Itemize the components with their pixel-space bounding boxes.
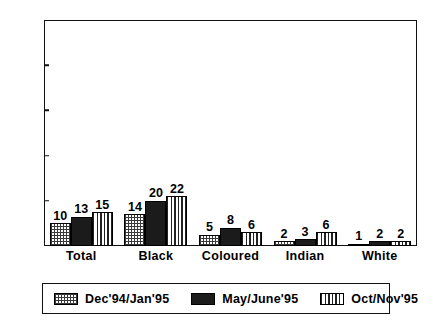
x-axis-category-labels: TotalBlackColouredIndianWhite: [44, 249, 417, 269]
x-axis-category-label: Black: [138, 249, 173, 263]
x-axis-category-label: White: [362, 249, 398, 263]
legend: Dec'94/Jan'95May/June'95Oct/Nov'95: [42, 283, 390, 314]
bar-value-label: 8: [227, 214, 234, 227]
bar: 13: [71, 217, 92, 246]
bar-value-label: 22: [170, 183, 184, 196]
bars-layer: 101315142022586236122: [44, 20, 417, 246]
legend-item: Dec'94/Jan'95: [54, 292, 169, 306]
bar-value-label: 6: [248, 219, 255, 232]
legend-swatch: [191, 293, 215, 305]
bar-value-label: 2: [281, 228, 288, 241]
bar-group: 586: [199, 20, 262, 246]
bar: 2: [274, 241, 295, 246]
bar-value-label: 6: [323, 219, 330, 232]
bar-group: 101315: [50, 20, 113, 246]
legend-item: May/June'95: [191, 292, 298, 306]
bar: 6: [241, 232, 262, 246]
bar-group: 142022: [124, 20, 187, 246]
x-axis-category-label: Total: [66, 249, 96, 263]
bar-value-label: 13: [74, 203, 88, 216]
bar-value-label: 20: [149, 187, 163, 200]
bar: 8: [220, 228, 241, 246]
legend-label: May/June'95: [222, 292, 298, 306]
bar: 6: [316, 232, 337, 246]
bar: 1: [348, 244, 369, 246]
bar: 14: [124, 214, 145, 246]
bar-value-label: 1: [355, 230, 362, 243]
bar-value-label: 2: [397, 228, 404, 241]
bar-chart: 020406080100 101315142022586236122 Total…: [0, 0, 433, 323]
bar-value-label: 3: [302, 226, 309, 239]
bar: 2: [390, 241, 411, 246]
bar: 22: [166, 196, 187, 246]
bar: 10: [50, 223, 71, 246]
legend-item: Oct/Nov'95: [320, 292, 418, 306]
bar: 15: [92, 212, 113, 246]
bar: 5: [199, 235, 220, 246]
bar-group: 122: [348, 20, 411, 246]
bar-value-label: 15: [95, 199, 109, 212]
legend-label: Dec'94/Jan'95: [85, 292, 169, 306]
x-axis-category-label: Coloured: [202, 249, 259, 263]
y-axis: 020406080100: [0, 0, 44, 323]
bar-value-label: 10: [53, 210, 67, 223]
bar-value-label: 5: [206, 221, 213, 234]
legend-swatch: [54, 293, 78, 305]
bar: 2: [369, 241, 390, 246]
bar: 20: [145, 201, 166, 246]
bar-value-label: 2: [376, 228, 383, 241]
bar-group: 236: [274, 20, 337, 246]
legend-swatch: [320, 293, 344, 305]
bar: 3: [295, 239, 316, 246]
x-axis-category-label: Indian: [286, 249, 325, 263]
legend-label: Oct/Nov'95: [351, 292, 418, 306]
bar-value-label: 14: [128, 201, 142, 214]
